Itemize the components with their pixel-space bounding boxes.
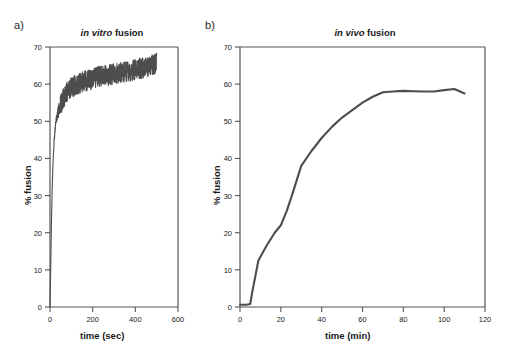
panel-a-ytick-0: 0 (38, 303, 42, 312)
panel-a-xtick-600: 600 (172, 315, 185, 324)
panel-b-ytick-50: 50 (224, 117, 232, 126)
panel-b-xtick-0: 0 (238, 315, 242, 324)
panel-a-ytick-50: 50 (34, 117, 42, 126)
panel-b-ytick-40: 40 (224, 154, 232, 163)
panel-a-ytick-10: 10 (34, 266, 42, 275)
panel-a-ytick-70: 70 (34, 43, 42, 52)
panel-b-ytick-60: 60 (224, 80, 232, 89)
panel-a-y-ticks: 0 10 20 30 40 50 60 70 (34, 43, 50, 312)
panel-a-x-ticks: 0 200 400 600 (48, 307, 184, 324)
panel-b-xtick-120: 120 (479, 315, 492, 324)
panel-a-xtick-0: 0 (48, 315, 52, 324)
panel-a-ytick-40: 40 (34, 154, 42, 163)
panel-b-data-trace (240, 89, 465, 305)
panel-b-ytick-10: 10 (224, 266, 232, 275)
panel-b-xtick-40: 40 (317, 315, 325, 324)
panel-a-ytick-20: 20 (34, 229, 42, 238)
panel-b-xtick-100: 100 (438, 315, 451, 324)
panel-a-plot: 0 10 20 30 40 50 60 70 0 200 400 600 (0, 0, 200, 355)
panel-a-data-trace (50, 53, 157, 307)
panel-a-xtick-200: 200 (86, 315, 99, 324)
panel-b-axes (240, 47, 485, 307)
panel-b-ytick-0: 0 (228, 303, 232, 312)
panel-b-x-ticks: 0 20 40 60 80 100 120 (238, 307, 491, 324)
panel-b-xtick-60: 60 (358, 315, 366, 324)
figure-container: a) in vitro fusion % fusion time (sec) (0, 0, 506, 355)
panel-b-ytick-20: 20 (224, 229, 232, 238)
panel-b-y-ticks: 0 10 20 30 40 50 60 70 (224, 43, 240, 312)
panel-b-plot: 0 10 20 30 40 50 60 70 0 20 40 60 (200, 0, 506, 355)
panel-b-ytick-30: 30 (224, 192, 232, 201)
panel-b-ytick-70: 70 (224, 43, 232, 52)
panel-a: a) in vitro fusion % fusion time (sec) (0, 0, 200, 355)
panel-b-xtick-20: 20 (277, 315, 285, 324)
panel-b-xtick-80: 80 (399, 315, 407, 324)
panel-a-ytick-30: 30 (34, 192, 42, 201)
panel-a-xtick-400: 400 (129, 315, 142, 324)
panel-a-ytick-60: 60 (34, 80, 42, 89)
panel-b: b) in vivo fusion % fusion time (min) (200, 0, 506, 355)
